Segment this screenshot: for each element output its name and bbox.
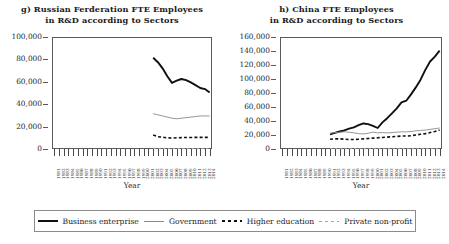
x-axis-tick-label: 2014 (442, 168, 446, 179)
x-axis-tick-mark (354, 149, 355, 156)
x-axis-tick-mark (287, 149, 288, 156)
series-line-government (153, 114, 209, 119)
y-axis-tick-label: 60,000 (244, 103, 270, 110)
x-axis-tick-mark (387, 149, 388, 156)
y-axis-tick-mark (271, 79, 276, 80)
legend-label-government: Government (169, 217, 217, 226)
plot-area-h (280, 37, 442, 149)
legend-item-business-enterprise: Business enterprise (38, 217, 139, 226)
x-axis-tick-mark (167, 149, 168, 156)
y-axis-tick-mark (271, 121, 276, 122)
series-lines-g (52, 37, 212, 149)
x-axis-tick-mark (83, 149, 84, 156)
x-axis-tick-mark (64, 149, 65, 156)
x-axis-tick-mark (397, 149, 398, 156)
y-axis-tick-mark (271, 149, 276, 150)
x-axis-tick-mark (430, 149, 431, 156)
x-axis-tick-mark (416, 149, 417, 156)
y-axis-tick-label: 80,000 (244, 89, 270, 96)
x-axis-tick-mark (411, 149, 412, 156)
y-axis-tick-mark (43, 104, 48, 105)
y-axis-tick-label: 0 (265, 145, 270, 152)
x-axis-tick-mark (373, 149, 374, 156)
x-axis-tick-mark (392, 149, 393, 156)
y-axis-tick-label: 60,000 (16, 78, 42, 85)
y-axis-tick-label: 140,000 (239, 47, 270, 54)
chart-panel-china: h) China FTE Employees in R&D according … (224, 0, 449, 200)
x-axis-tick-mark (340, 149, 341, 156)
y-axis-tick-label: 80,000 (16, 56, 42, 63)
x-axis-tick-mark (196, 149, 197, 156)
panel-title-h: h) China FTE Employees in R&D according … (224, 4, 449, 25)
x-axis-tick-mark (186, 149, 187, 156)
y-axis-tick-label: 100,000 (11, 33, 42, 40)
x-axis-tick-mark (139, 149, 140, 156)
x-axis-tick-mark (292, 149, 293, 156)
x-axis-tick-mark (125, 149, 126, 156)
legend-item-private-non-profit: Private non-profit (319, 217, 412, 226)
x-axis-tick-mark (130, 149, 131, 156)
series-line-business-enterprise (153, 58, 209, 93)
panel-title-h-line1: h) China FTE Employees (224, 4, 449, 15)
x-axis-tick-mark (301, 149, 302, 156)
x-axis-tick-mark (311, 149, 312, 156)
x-axis-labels-g: 1981198219831984198519861987198819891990… (52, 157, 212, 183)
y-axis-tick-mark (43, 82, 48, 83)
x-axis-tick-mark (59, 149, 60, 156)
x-axis-tick-mark (297, 149, 298, 156)
x-axis-tick-mark (153, 149, 154, 156)
y-axis-tick-label: 20,000 (16, 123, 42, 130)
x-axis-tick-mark (344, 149, 345, 156)
x-axis-tick-mark (435, 149, 436, 156)
x-axis-tick-mark (359, 149, 360, 156)
x-axis-tick-mark (382, 149, 383, 156)
legend-item-higher-education: Higher education (222, 217, 314, 226)
panel-title-g-line1: g) Russian Ferderation FTE Employees (0, 4, 224, 15)
x-axis-tick-mark (101, 149, 102, 156)
x-axis-tick-mark (306, 149, 307, 156)
y-axis-tick-mark (271, 135, 276, 136)
y-axis-tick-label: 160,000 (239, 33, 270, 40)
x-axis-tick-mark (144, 149, 145, 156)
x-axis-tick-mark (68, 149, 69, 156)
x-axis-tick-label: 2014 (212, 168, 216, 179)
y-axis-tick-label: 40,000 (244, 117, 270, 124)
x-axis-tick-mark (54, 149, 55, 156)
y-axis-tick-label: 100,000 (239, 75, 270, 82)
x-axis-tick-mark (200, 149, 201, 156)
x-axis-tick-mark (330, 149, 331, 156)
legend-label-higher-education: Higher education (247, 217, 314, 226)
x-axis-tick-mark (282, 149, 283, 156)
y-axis-tick-label: 0 (37, 145, 42, 152)
x-axis-tick-mark (363, 149, 364, 156)
series-line-higher-education (153, 135, 209, 138)
x-axis-tick-mark (191, 149, 192, 156)
x-axis-tick-mark (406, 149, 407, 156)
x-axis-tick-mark (92, 149, 93, 156)
y-axis-tick-mark (271, 51, 276, 52)
y-axis-tick-mark (271, 65, 276, 66)
panel-title-g-line2: in R&D according to Sectors (0, 15, 224, 26)
x-axis-title-h: Year (280, 181, 442, 190)
x-axis-tick-mark (316, 149, 317, 156)
x-axis-tick-mark (421, 149, 422, 156)
x-axis-tick-mark (116, 149, 117, 156)
x-axis-tick-mark (148, 149, 149, 156)
x-axis-tick-mark (111, 149, 112, 156)
x-axis-tick-mark (402, 149, 403, 156)
y-axis-labels-g: 020,00040,00060,00080,000100,000 (0, 37, 48, 149)
x-axis-tick-mark (87, 149, 88, 156)
x-axis-tick-mark (73, 149, 74, 156)
plot-area-g (52, 37, 212, 149)
x-axis-tick-mark (368, 149, 369, 156)
legend-swatch-government (144, 219, 164, 223)
y-axis-tick-mark (43, 127, 48, 128)
panel-title-g: g) Russian Ferderation FTE Employees in … (0, 4, 224, 25)
chart-legend: Business enterprise Government Higher ed… (34, 210, 416, 232)
x-axis-tick-mark (321, 149, 322, 156)
x-axis-tick-mark (335, 149, 336, 156)
x-axis-tick-mark (163, 149, 164, 156)
x-axis-title-g: Year (52, 181, 212, 190)
y-axis-tick-mark (271, 107, 276, 108)
legend-swatch-higher-education (222, 219, 242, 223)
